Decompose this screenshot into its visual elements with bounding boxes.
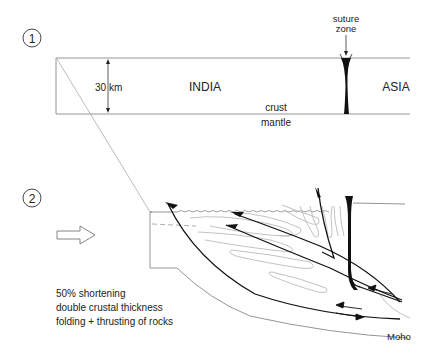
mantle-label: mantle xyxy=(261,117,291,128)
note-1: 50% shortening xyxy=(56,288,126,299)
stage-2-number: 2 xyxy=(29,192,36,206)
moho-label: Moho xyxy=(387,331,411,342)
push-arrow-icon xyxy=(57,226,95,244)
note-2: double crustal thickness xyxy=(56,302,163,313)
shear-arrows xyxy=(336,285,392,320)
thickness-label: 30 km xyxy=(95,82,122,93)
stage-1: 1 30 km INDIA ASIA crust mantle suture z… xyxy=(23,13,410,128)
suture-zone xyxy=(341,58,351,114)
collision-diagram: 1 30 km INDIA ASIA crust mantle suture z… xyxy=(0,0,448,360)
stage-1-number: 1 xyxy=(29,32,36,46)
india-label: INDIA xyxy=(189,80,221,94)
note-3: folding + thrusting of rocks xyxy=(56,316,173,327)
folds xyxy=(190,205,410,318)
thrust-faults xyxy=(168,188,402,319)
crust-label: crust xyxy=(265,102,287,113)
thrust-arrowheads xyxy=(165,187,321,229)
asia-label: ASIA xyxy=(382,80,409,94)
suture-label-line2: zone xyxy=(336,23,357,34)
stage-2: 2 xyxy=(23,187,411,342)
